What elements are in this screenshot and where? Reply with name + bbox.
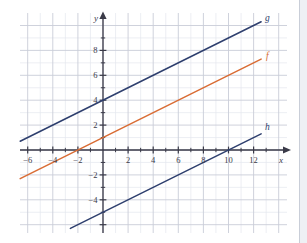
x-tick-label-4: 4 <box>151 156 155 165</box>
series-label-f: f <box>266 52 269 62</box>
x-tick-label--6: −6 <box>23 156 32 165</box>
x-tick-label-10: 10 <box>224 156 233 165</box>
x-tick-label-2: 2 <box>126 156 130 165</box>
y-tick-label--2: −2 <box>88 171 97 180</box>
page-edge-gutter <box>299 0 307 243</box>
y-tick-label-6: 6 <box>93 71 97 80</box>
y-tick-label--4: −4 <box>88 196 97 205</box>
x-tick-label--2: −2 <box>73 156 82 165</box>
x-tick-label-8: 8 <box>201 156 205 165</box>
x-tick-label--4: −4 <box>48 156 57 165</box>
x-tick-label-6: 6 <box>176 156 180 165</box>
coordinate-plane-svg <box>0 0 307 243</box>
y-tick-label-8: 8 <box>93 46 97 55</box>
x-tick-label-12: 12 <box>249 156 258 165</box>
y-tick-label-2: 2 <box>93 121 97 130</box>
series-label-g: g <box>265 15 270 25</box>
chart-canvas: −6−4−2246810128642−2−4xygfh <box>0 0 307 243</box>
x-axis-name: x <box>279 156 283 165</box>
series-label-h: h <box>265 123 270 133</box>
y-tick-label-4: 4 <box>93 96 97 105</box>
y-axis-name: y <box>94 14 98 23</box>
